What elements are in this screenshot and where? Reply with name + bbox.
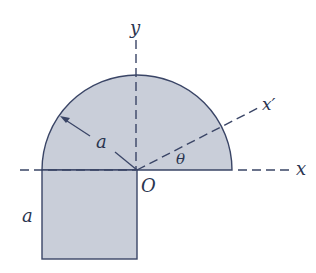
- angle-label: θ: [176, 150, 185, 168]
- x-prime-axis-label: x′: [262, 94, 276, 114]
- square-side-label: a: [22, 205, 33, 226]
- y-axis-label: y: [129, 17, 141, 38]
- radius-label: a: [96, 131, 107, 152]
- square-region: [42, 170, 137, 259]
- diagram-canvas: y x x′ O a a θ: [0, 0, 316, 273]
- x-axis-label: x: [296, 158, 306, 179]
- origin-label: O: [141, 175, 156, 196]
